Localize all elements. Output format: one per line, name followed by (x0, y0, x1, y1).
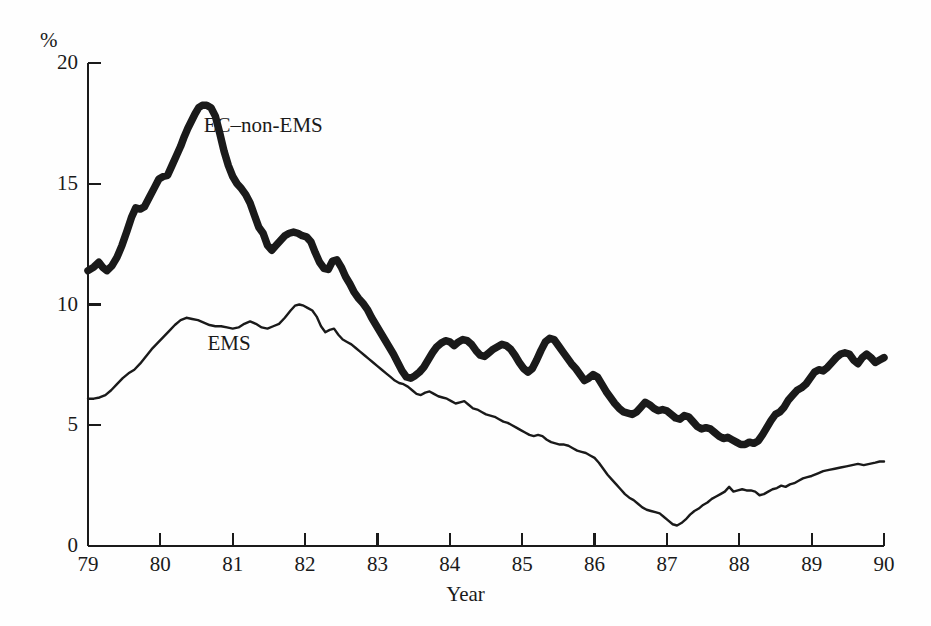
y-axis-title: % (40, 30, 58, 51)
x-tick-label-88: 88 (709, 554, 769, 575)
x-tick-label-87: 87 (637, 554, 697, 575)
series-line-ec-non-ems (88, 105, 884, 444)
x-tick-label-85: 85 (492, 554, 552, 575)
x-tick-label-82: 82 (275, 554, 335, 575)
chart-figure: % Year 05101520 798081828384858687888990… (0, 0, 931, 626)
series-label-ec-non-ems: EC–non-EMS (204, 115, 323, 136)
chart-series (88, 105, 884, 525)
x-tick-label-86: 86 (565, 554, 625, 575)
y-tick-label-0: 0 (20, 535, 78, 556)
x-tick-label-90: 90 (854, 554, 914, 575)
line-chart-canvas (0, 0, 931, 626)
y-tick-label-10: 10 (20, 294, 78, 315)
x-tick-label-79: 79 (58, 554, 118, 575)
y-tick-label-5: 5 (20, 414, 78, 435)
x-tick-label-89: 89 (782, 554, 842, 575)
y-tick-label-15: 15 (20, 173, 78, 194)
x-tick-label-80: 80 (130, 554, 190, 575)
x-tick-label-81: 81 (203, 554, 263, 575)
x-tick-label-84: 84 (420, 554, 480, 575)
x-axis-title: Year (0, 584, 931, 605)
y-tick-label-20: 20 (20, 52, 78, 73)
x-tick-label-83: 83 (347, 554, 407, 575)
series-label-ems: EMS (207, 333, 250, 354)
